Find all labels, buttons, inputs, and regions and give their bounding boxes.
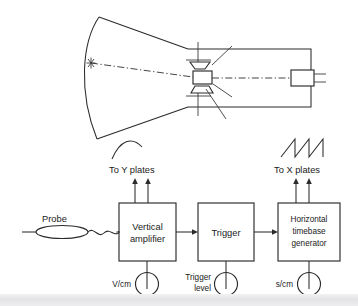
to-x-plates-label: To X plates — [274, 165, 320, 175]
vertical-amplifier-label-line2: amplifier — [130, 234, 165, 244]
vertical-amplifier-block: Vertical amplifier — [119, 203, 176, 261]
screen-spot-marker — [87, 58, 96, 69]
probe-body — [36, 226, 88, 239]
probe-label: Probe — [42, 214, 67, 224]
figure-canvas: To Y plates To X plates — [0, 0, 358, 306]
beam-aperture-box — [193, 71, 212, 84]
timebase-label-line1: Horizontal — [291, 215, 328, 224]
timebase-label-line2: timebase — [292, 227, 326, 236]
x-deflection-plate — [191, 86, 213, 93]
horizontal-timebase-generator-block: Horizontal timebase generator — [278, 203, 340, 261]
trigger-block: Trigger — [198, 203, 254, 261]
trigger-level-knob-label-line1: Trigger — [185, 273, 211, 282]
timebase-label-line3: generator — [291, 239, 326, 248]
oscilloscope-figure: To Y plates To X plates — [0, 0, 358, 306]
trigger-label: Trigger — [211, 228, 240, 238]
vertical-amplifier-label-line1: Vertical — [132, 222, 163, 232]
volts-per-cm-knob-label: V/cm — [112, 280, 131, 289]
vertical-amplifier-box — [119, 203, 176, 261]
cathode-block — [291, 70, 314, 86]
trigger-level-knob-label-line2: level — [194, 284, 211, 293]
to-y-plates-label: To Y plates — [109, 165, 155, 175]
seconds-per-cm-knob-label: s/cm — [276, 280, 293, 289]
bottom-page-strip — [0, 294, 358, 306]
